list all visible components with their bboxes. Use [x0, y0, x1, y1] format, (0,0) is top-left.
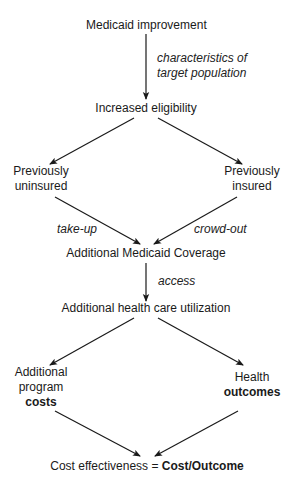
arrow-utilization-to-outcomes — [158, 318, 243, 365]
node-cost-effectiveness: Cost effectiveness = Cost/Outcome — [36, 459, 258, 474]
arrow-costs-to-effectiveness — [55, 411, 140, 456]
node-additional-costs-line-1: Additional — [6, 365, 76, 380]
arrow-outcomes-to-effectiveness — [155, 411, 238, 456]
node-increased-eligibility: Increased eligibility — [86, 101, 206, 116]
node-additional-costs-line-3: costs — [6, 395, 76, 410]
node-previously-uninsured: Previously uninsured — [6, 164, 76, 194]
node-health-outcomes-line-1: Health — [216, 370, 288, 385]
label-characteristics-line-2: target population — [157, 66, 247, 81]
label-crowd-out: crowd-out — [194, 222, 247, 237]
node-additional-utilization: Additional health care utilization — [46, 301, 246, 316]
arrow-eligibility-to-uninsured — [50, 118, 134, 164]
node-previously-insured-line-2: insured — [217, 179, 287, 194]
node-previously-uninsured-line-2: uninsured — [6, 179, 76, 194]
label-characteristics: characteristics of target population — [157, 51, 247, 81]
node-additional-costs-line-2: program — [6, 380, 76, 395]
arrow-eligibility-to-insured — [158, 118, 242, 164]
cost-effectiveness-prefix: Cost effectiveness = — [50, 459, 162, 473]
label-access: access — [158, 274, 195, 289]
arrow-utilization-to-costs — [50, 318, 134, 365]
node-health-outcomes: Health outcomes — [216, 370, 288, 400]
node-health-outcomes-line-2: outcomes — [216, 385, 288, 400]
node-previously-insured-line-1: Previously — [217, 164, 287, 179]
label-characteristics-line-1: characteristics of — [157, 51, 247, 66]
node-previously-insured: Previously insured — [217, 164, 287, 194]
flow-arrows — [0, 0, 296, 488]
label-take-up: take-up — [57, 222, 97, 237]
cost-effectiveness-formula: Cost/Outcome — [162, 459, 244, 473]
node-additional-coverage: Additional Medicaid Coverage — [56, 246, 236, 261]
node-medicaid-improvement: Medicaid improvement — [86, 18, 206, 33]
node-additional-costs: Additional program costs — [6, 365, 76, 410]
node-previously-uninsured-line-1: Previously — [6, 164, 76, 179]
